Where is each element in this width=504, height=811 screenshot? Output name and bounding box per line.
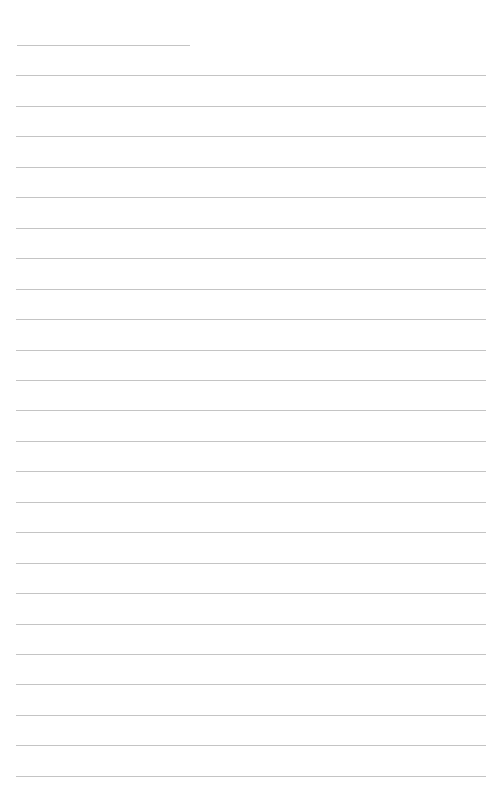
ruled-line	[16, 167, 486, 168]
ruled-line	[16, 380, 486, 381]
ruled-line	[16, 136, 486, 137]
ruled-line	[16, 350, 486, 351]
ruled-line	[16, 258, 486, 259]
ruled-line	[16, 624, 486, 625]
ruled-line	[16, 654, 486, 655]
ruled-line	[16, 319, 486, 320]
ruled-line	[16, 106, 486, 107]
ruled-line	[16, 715, 486, 716]
ruled-line	[16, 471, 486, 472]
ruled-line	[16, 289, 486, 290]
ruled-line	[16, 532, 486, 533]
ruled-line	[16, 410, 486, 411]
ruled-line	[16, 684, 486, 685]
ruled-line	[16, 563, 486, 564]
ruled-line	[16, 441, 486, 442]
short-header-line	[17, 45, 190, 46]
ruled-line	[16, 745, 486, 746]
ruled-line	[16, 502, 486, 503]
ruled-line	[16, 228, 486, 229]
ruled-line	[16, 75, 486, 76]
ruled-line	[16, 776, 486, 777]
ruled-line	[16, 197, 486, 198]
ruled-line	[16, 593, 486, 594]
lined-page	[0, 0, 504, 811]
